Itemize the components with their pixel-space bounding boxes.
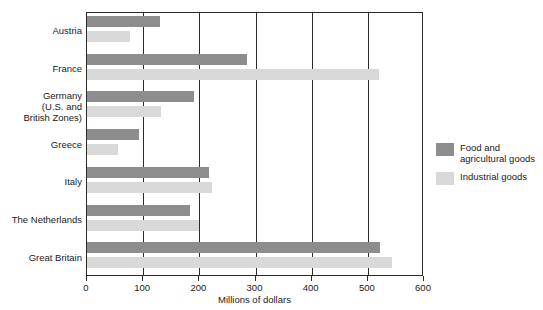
tick-mark bbox=[255, 276, 256, 281]
bar bbox=[87, 220, 199, 231]
bar bbox=[87, 242, 380, 253]
bar bbox=[87, 257, 392, 268]
bar bbox=[87, 129, 139, 140]
bar bbox=[87, 31, 130, 42]
category-label: Great Britain bbox=[0, 252, 82, 263]
legend-label: Industrial goods bbox=[460, 171, 527, 182]
bar bbox=[87, 144, 118, 155]
bar bbox=[87, 106, 161, 117]
bar bbox=[87, 91, 194, 102]
plot-area bbox=[86, 12, 423, 276]
legend-label: Food and agricultural goods bbox=[460, 142, 535, 164]
category-axis-labels: AustriaFranceGermany (U.S. and British Z… bbox=[0, 12, 82, 276]
legend-swatch bbox=[436, 172, 454, 185]
x-tick-label: 600 bbox=[403, 282, 443, 293]
x-tick-label: 300 bbox=[235, 282, 275, 293]
bar bbox=[87, 205, 190, 216]
category-label: France bbox=[0, 63, 82, 74]
category-label: Austria bbox=[0, 25, 82, 36]
bar bbox=[87, 167, 209, 178]
bar bbox=[87, 69, 379, 80]
category-label: Italy bbox=[0, 176, 82, 187]
bar-group bbox=[87, 13, 422, 51]
x-tick-label: 100 bbox=[122, 282, 162, 293]
legend-item: Food and agricultural goods bbox=[436, 142, 540, 164]
x-tick-label: 0 bbox=[66, 282, 106, 293]
bar-group bbox=[87, 88, 422, 126]
bar-chart: AustriaFranceGermany (U.S. and British Z… bbox=[0, 0, 543, 310]
bar bbox=[87, 54, 247, 65]
bar-group bbox=[87, 164, 422, 202]
x-axis-title: Millions of dollars bbox=[86, 294, 423, 305]
tick-mark bbox=[423, 276, 424, 281]
x-tick-label: 400 bbox=[291, 282, 331, 293]
tick-mark bbox=[198, 276, 199, 281]
category-label: Greece bbox=[0, 139, 82, 150]
bar bbox=[87, 16, 160, 27]
tick-mark bbox=[311, 276, 312, 281]
tick-mark bbox=[86, 276, 87, 281]
bar-group bbox=[87, 239, 422, 277]
bar-group bbox=[87, 126, 422, 164]
bar-group bbox=[87, 51, 422, 89]
category-label: The Netherlands bbox=[0, 214, 82, 225]
tick-mark bbox=[142, 276, 143, 281]
chart-legend: Food and agricultural goodsIndustrial go… bbox=[436, 142, 540, 192]
category-label: Germany (U.S. and British Zones) bbox=[0, 90, 82, 123]
legend-swatch bbox=[436, 143, 454, 156]
bar-group bbox=[87, 202, 422, 240]
bar bbox=[87, 182, 212, 193]
x-tick-label: 500 bbox=[347, 282, 387, 293]
x-tick-label: 200 bbox=[178, 282, 218, 293]
tick-mark bbox=[367, 276, 368, 281]
legend-item: Industrial goods bbox=[436, 171, 540, 185]
